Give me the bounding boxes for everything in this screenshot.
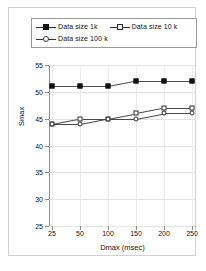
x-gridline <box>164 65 165 226</box>
series-line-segment <box>52 124 80 125</box>
figure-frame: Data size 1k Data size 10 k Data size 10… <box>8 7 196 256</box>
series-line-segment <box>108 81 136 87</box>
y-axis-tick <box>45 92 49 93</box>
x-axis-tick-label: 200 <box>158 230 170 237</box>
series-line-segment <box>108 119 136 120</box>
legend-label-data-size-1k: Data size 1k <box>58 23 98 31</box>
open-square-marker-icon <box>110 23 130 32</box>
legend-label-data-size-10k: Data size 10 k <box>132 23 178 31</box>
data-point <box>190 105 195 110</box>
legend-row-2: Data size 100 k <box>36 33 193 45</box>
data-point <box>50 84 55 89</box>
series-line-segment <box>164 113 192 114</box>
x-axis-title: Dmax (msec) <box>49 244 196 252</box>
data-point <box>162 105 167 110</box>
y-axis-tick <box>45 226 49 227</box>
data-point <box>162 79 167 84</box>
plot-area: 253035404550552550100150200250 <box>49 65 195 226</box>
data-point <box>134 111 139 116</box>
data-point <box>190 79 195 84</box>
y-gridline <box>49 92 195 93</box>
legend-item-data-size-1k: Data size 1k <box>36 21 98 33</box>
series-line-segment <box>52 86 80 87</box>
y-axis-tick-label: 30 <box>35 196 43 203</box>
open-circle-marker-icon <box>36 35 56 44</box>
data-point <box>78 116 83 121</box>
x-gridline <box>80 65 81 226</box>
data-point <box>106 84 111 89</box>
data-point <box>78 84 83 89</box>
x-gridline <box>52 65 53 226</box>
series-line-segment <box>136 81 164 82</box>
data-point <box>190 111 195 116</box>
data-point <box>162 111 167 116</box>
data-point <box>134 79 139 84</box>
y-gridline <box>49 199 195 200</box>
x-axis-tick-label: 50 <box>76 230 84 237</box>
series-line-segment <box>80 86 108 87</box>
x-axis-tick-label: 25 <box>48 230 56 237</box>
series-line-segment <box>164 108 192 109</box>
y-axis-tick-label: 40 <box>35 142 43 149</box>
y-axis-tick <box>45 172 49 173</box>
y-axis-tick-label: 50 <box>35 88 43 95</box>
x-axis-tick-label: 250 <box>186 230 198 237</box>
data-point <box>134 116 139 121</box>
y-gridline <box>49 65 195 66</box>
data-point <box>78 122 83 127</box>
y-gridline <box>49 226 195 227</box>
x-gridline <box>192 65 193 226</box>
chart-page: Data size 1k Data size 10 k Data size 10… <box>0 0 206 271</box>
y-axis-tick <box>45 65 49 66</box>
data-point <box>106 116 111 121</box>
y-axis-tick <box>45 119 49 120</box>
x-axis-tick-label: 100 <box>102 230 114 237</box>
x-gridline <box>108 65 109 226</box>
filled-square-marker-icon <box>36 23 56 32</box>
chart-legend: Data size 1k Data size 10 k Data size 10… <box>31 18 197 48</box>
x-gridline <box>136 65 137 226</box>
y-gridline <box>49 146 195 147</box>
y-axis-tick-label: 25 <box>35 223 43 230</box>
x-axis-tick-label: 150 <box>130 230 142 237</box>
legend-label-data-size-100k: Data size 100 k <box>58 35 108 43</box>
y-axis-tick-label: 35 <box>35 169 43 176</box>
data-point <box>50 122 55 127</box>
y-axis-title: Smax <box>18 107 26 126</box>
y-axis-tick-label: 45 <box>35 115 43 122</box>
y-gridline <box>49 172 195 173</box>
legend-item-data-size-100k: Data size 100 k <box>36 33 108 45</box>
series-line-segment <box>164 81 192 82</box>
legend-item-data-size-10k: Data size 10 k <box>110 21 178 33</box>
y-axis-tick <box>45 199 49 200</box>
y-axis-tick-label: 55 <box>35 62 43 69</box>
legend-row-1: Data size 1k Data size 10 k <box>36 21 193 33</box>
y-axis-tick <box>45 146 49 147</box>
